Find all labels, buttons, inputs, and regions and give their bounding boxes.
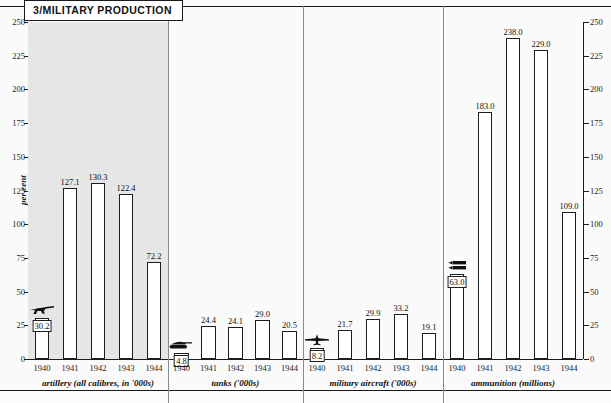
axis-tick [584,292,589,293]
x-axis-year-label: 1943 [527,363,555,373]
axis-tick-label: 175 [12,118,25,128]
axis-tick-label: 75 [17,253,26,263]
x-axis-year-label: 1941 [195,363,222,373]
bar[interactable]: 8.2 [310,348,325,359]
x-axis-year-label: 1940 [443,363,471,373]
axis-tick-label: 100 [12,219,25,229]
bar[interactable]: 63.0 [450,274,465,359]
panel-label: ammunition (millions) [443,378,583,388]
axis-tick-label: 50 [17,287,26,297]
axis-tick-label: 150 [590,152,603,162]
bar-value-label: 122.4 [116,183,135,193]
axis-tick [584,89,589,90]
chart-page: 3/MILITARY PRODUCTION 025507510012515017… [0,0,611,403]
axis-tick-label: 0 [590,354,594,364]
bar[interactable]: 29.9 [366,319,381,359]
axis-tick-label: 100 [590,219,603,229]
x-axis-year-label: 1942 [359,363,387,373]
axis-tick [584,359,589,360]
airplane-icon [304,333,330,346]
chart-panel [168,22,303,359]
bar-value-label: 33.2 [394,303,409,313]
bar-value-label: 19.1 [422,322,437,332]
x-axis-year-label: 1944 [140,363,168,373]
axis-tick-label: 200 [12,84,25,94]
axis-tick [584,22,589,23]
bar[interactable]: 33.2 [394,314,409,359]
bar-value-label: 72.2 [147,251,162,261]
bar-value-label: 229.0 [531,39,550,49]
bar-value-label: 130.3 [88,172,107,182]
bar[interactable]: 30.2 [35,318,50,359]
plot-area: 0255075100125150175200225250 02550751001… [28,22,583,359]
bar-value-label: 63.0 [448,276,467,288]
bar-value-label: 20.5 [282,320,297,330]
axis-tick-label: 225 [12,51,25,61]
x-axis-year-label: 1944 [415,363,443,373]
axis-tick-label: 0 [21,354,25,364]
bar[interactable]: 24.4 [201,326,215,359]
bar-value-label: 238.0 [503,27,522,37]
x-axis-year-label: 1942 [222,363,249,373]
axis-tick-label: 25 [590,320,599,330]
bar[interactable]: 183.0 [478,112,493,359]
bar-value-label: 24.1 [228,316,243,326]
x-axis-year-label: 1940 [28,363,56,373]
bar-value-label: 109.0 [559,201,578,211]
panel-divider [443,6,444,403]
bar[interactable]: 29.0 [255,320,269,359]
x-axis-year-label: 1943 [112,363,140,373]
x-axis-year-label: 1943 [249,363,276,373]
panel-label: tanks ('000s) [168,378,303,388]
panel-label: military aircraft ('000s) [303,378,443,388]
x-axis-year-label: 1940 [168,363,195,373]
x-axis-year-label: 1941 [331,363,359,373]
x-axis-year-label: 1944 [555,363,583,373]
axis-tick [584,224,589,225]
bar[interactable]: 24.1 [228,327,242,359]
bar[interactable]: 20.5 [282,331,296,359]
axis-tick-label: 25 [17,320,26,330]
x-axis-year-label: 1941 [471,363,499,373]
bar-value-label: 24.4 [201,315,216,325]
bar[interactable]: 4.8 [174,353,188,359]
bar[interactable]: 19.1 [422,333,437,359]
axis-tick [584,325,589,326]
x-axis-year-label: 1940 [303,363,331,373]
axis-tick-label: 50 [590,287,599,297]
bar-value-label: 29.0 [255,309,270,319]
x-axis-year-label: 1943 [387,363,415,373]
axis-tick-label: 225 [590,51,603,61]
bar[interactable]: 238.0 [506,38,521,359]
bar-value-label: 30.2 [33,320,52,332]
axis-tick-label: 200 [590,84,603,94]
axis-tick [584,123,589,124]
bar[interactable]: 109.0 [562,212,577,359]
bar[interactable]: 21.7 [338,330,353,359]
axis-tick-label: 75 [590,253,599,263]
bar[interactable]: 127.1 [63,188,78,359]
x-axis-baseline [28,359,583,360]
bar[interactable]: 130.3 [91,183,106,359]
bar[interactable]: 122.4 [119,194,134,359]
axis-tick [584,56,589,57]
bar[interactable]: 229.0 [534,50,549,359]
bar-value-label: 127.1 [60,177,79,187]
bar-value-label: 29.9 [366,308,381,318]
axis-tick [584,157,589,158]
axis-tick-label: 250 [590,17,603,27]
axis-tick-label: 175 [590,118,603,128]
bar[interactable]: 72.2 [147,262,162,359]
bar-value-label: 183.0 [475,101,494,111]
axis-tick-label: 125 [590,186,603,196]
cannon-icon [29,303,55,316]
ammunition-icon [444,259,470,272]
axis-tick-label: 150 [12,152,25,162]
x-axis-year-label: 1942 [499,363,527,373]
y-axis-right: 0255075100125150175200225250 [583,22,584,359]
x-axis-year-label: 1942 [84,363,112,373]
x-axis-year-label: 1941 [56,363,84,373]
tank-icon [168,338,194,351]
bar-value-label: 21.7 [338,319,353,329]
y-axis-title: per cent [18,175,28,205]
